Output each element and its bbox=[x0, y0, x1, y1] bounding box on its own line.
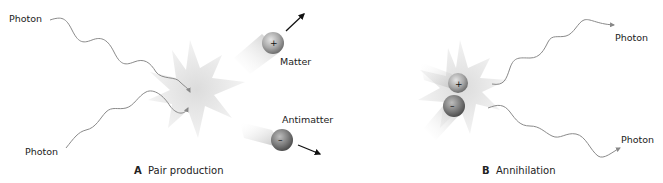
panel-annihilation: + – Photon Photon B Annihilation bbox=[418, 20, 654, 176]
antimatter-direction-arrow bbox=[298, 145, 320, 154]
panel-a-caption: Pair production bbox=[148, 165, 223, 176]
antimatter-sign: – bbox=[278, 135, 283, 145]
energy-burst bbox=[148, 40, 245, 138]
photon-out-label-top: Photon bbox=[615, 32, 648, 43]
photon-label-top: Photon bbox=[9, 13, 42, 24]
photon-label-bottom: Photon bbox=[25, 146, 58, 157]
panel-b-caption: Annihilation bbox=[496, 165, 555, 176]
photon-wave-out-top bbox=[492, 20, 614, 85]
antimatter-label: Antimatter bbox=[282, 114, 333, 125]
panel-a-letter: A bbox=[134, 165, 142, 176]
matter-direction-arrow bbox=[286, 14, 304, 31]
matter-label: Matter bbox=[280, 56, 311, 67]
negative-sign: – bbox=[450, 101, 455, 111]
photon-out-label-bottom: Photon bbox=[621, 134, 654, 145]
positive-sign: + bbox=[455, 79, 463, 89]
panel-pair-production: Photon Photon + Matter – Antimatter A Pa… bbox=[9, 13, 333, 176]
diagram-canvas: Photon Photon + Matter – Antimatter A Pa… bbox=[0, 0, 663, 183]
photon-wave-out-bottom bbox=[488, 105, 620, 157]
matter-sign: + bbox=[270, 38, 278, 48]
panel-b-letter: B bbox=[482, 165, 490, 176]
